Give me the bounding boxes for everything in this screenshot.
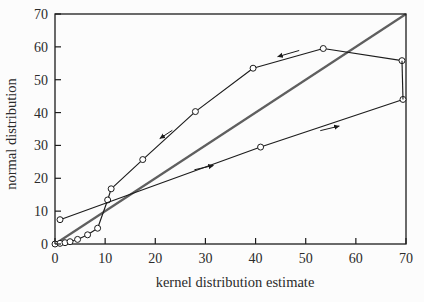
y-tick-label: 10: [34, 204, 48, 219]
x-tick-label: 40: [249, 251, 263, 266]
direction-arrows-layer: [160, 50, 340, 169]
right-edge-connector-line: [402, 61, 403, 100]
chart-canvas: 010203040506070010203040506070 kernel di…: [0, 0, 424, 302]
lower-branch-line: [60, 99, 403, 219]
y-tick-label: 40: [34, 106, 48, 121]
upper-branch-marker: [250, 65, 256, 71]
pp-plot-figure: 010203040506070010203040506070 kernel di…: [0, 0, 424, 302]
upper-branch-marker: [192, 109, 198, 115]
y-axis-title: normal distribution: [3, 77, 19, 189]
x-tick-label: 60: [349, 251, 363, 266]
upper-branch-marker: [67, 239, 73, 245]
upper-branch-line: [55, 49, 402, 245]
x-tick-label: 50: [299, 251, 313, 266]
upper-branch-marker: [108, 186, 114, 192]
y-tick-label: 70: [34, 7, 48, 22]
data-series-layer: [52, 46, 406, 248]
y-tick-label: 50: [34, 73, 48, 88]
x-tick-label: 70: [399, 251, 413, 266]
x-tick-label: 30: [198, 251, 212, 266]
x-axis-title: kernel distribution estimate: [156, 274, 315, 290]
y-tick-label: 30: [34, 138, 48, 153]
lower-branch-arrow-left: [194, 165, 213, 169]
x-tick-label: 0: [52, 251, 59, 266]
x-tick-label: 20: [148, 251, 162, 266]
upper-branch-marker: [320, 46, 326, 52]
upper-branch-marker: [75, 236, 81, 242]
upper-branch-marker: [85, 232, 91, 238]
upper-branch-marker: [140, 157, 146, 163]
x-tick-label: 10: [98, 251, 112, 266]
identity-line-layer: [55, 14, 406, 244]
y-tick-label: 20: [34, 171, 48, 186]
y-tick-label: 60: [34, 40, 48, 55]
lower-branch-marker: [258, 144, 264, 150]
y-tick-label: 0: [41, 237, 48, 252]
identity-line: [55, 14, 406, 244]
lower-branch-marker: [57, 217, 63, 223]
upper-branch-marker: [95, 225, 101, 231]
